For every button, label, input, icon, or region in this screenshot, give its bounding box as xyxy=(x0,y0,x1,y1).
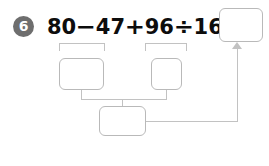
connector-join-middle xyxy=(81,99,167,100)
equation-operand-2: 47 xyxy=(96,15,125,39)
connector-stub-left xyxy=(81,90,82,99)
plus-operator: + xyxy=(124,15,147,39)
grouping-bracket-right xyxy=(145,43,187,51)
connector-stub-right xyxy=(166,90,167,99)
answer-box[interactable] xyxy=(219,8,263,42)
connector-right-to-answer xyxy=(237,48,238,121)
equation-operand-1: 80 xyxy=(47,15,76,39)
equation: 80 − 47 + 96 ÷ 16 = xyxy=(47,13,242,41)
arrow-up-icon xyxy=(232,42,242,49)
worksheet-problem: 6 80 − 47 + 96 ÷ 16 = xyxy=(0,0,269,166)
equation-operand-3: 96 xyxy=(145,15,174,39)
problem-number-badge: 6 xyxy=(13,16,34,37)
minus-operator: − xyxy=(75,15,98,39)
divide-operator: ÷ xyxy=(172,15,195,39)
work-box-left[interactable] xyxy=(59,58,104,90)
work-box-bottom[interactable] xyxy=(99,106,146,136)
work-box-right[interactable] xyxy=(151,58,182,90)
connector-bottom-to-right xyxy=(146,121,238,122)
grouping-bracket-left xyxy=(59,43,105,51)
